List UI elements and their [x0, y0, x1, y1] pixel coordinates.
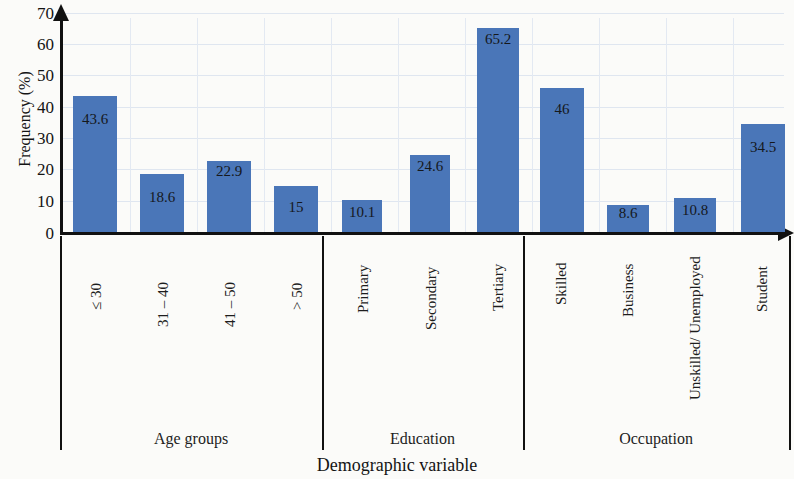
group-separator-age-education	[322, 236, 324, 450]
gridline-50	[62, 75, 784, 76]
x-tick-label-occupation-skilled: Skilled	[553, 262, 570, 305]
y-axis-line	[60, 18, 63, 235]
x-tick-label-occupation-unskilled-unemployed: Unskilled/ Unemployed	[687, 256, 704, 400]
x-tick-label-age-over-50: > 50	[289, 283, 306, 310]
gridline-vertical	[197, 18, 198, 232]
bar-label-education-primary: 10.1	[342, 205, 382, 220]
y-axis-title: Frequency (%)	[16, 44, 34, 194]
bar-label-occupation-skilled: 46	[540, 102, 584, 117]
x-tick-label-occupation-business: Business	[620, 264, 637, 317]
x-tick-label-education-primary: Primary	[355, 265, 372, 313]
gridline-vertical	[398, 18, 399, 232]
x-tick-label-occupation-student: Student	[754, 266, 771, 312]
group-label-education: Education	[322, 430, 523, 448]
x-tick-label-age-31-40: 31 – 40	[155, 282, 172, 327]
bar-education-tertiary	[477, 28, 519, 232]
gridline-40	[62, 107, 784, 108]
gridline-30	[62, 138, 784, 139]
y-tick-0: 0	[18, 225, 54, 242]
y-axis-arrow-icon	[53, 4, 69, 21]
gridline-vertical	[733, 18, 734, 232]
bar-chart: 70 60 50 40 30 20 10 0 Frequency (%) 43.…	[0, 0, 794, 479]
group-label-age-groups: Age groups	[60, 430, 322, 448]
x-tick-label-education-secondary: Secondary	[423, 267, 440, 330]
group-separator-left	[60, 236, 62, 450]
group-separator-right	[789, 236, 791, 450]
x-axis-line	[60, 232, 782, 235]
group-separator-education-occupation	[523, 236, 525, 450]
gridline-vertical	[130, 18, 131, 232]
y-tick-70: 70	[18, 5, 54, 22]
gridline-vertical	[465, 18, 466, 232]
bar-label-age-30-or-less: 43.6	[73, 112, 117, 127]
gridline-60	[62, 44, 784, 45]
bar-label-occupation-business: 8.6	[607, 206, 649, 221]
bar-label-age-31-40: 18.6	[140, 190, 184, 205]
gridline-vertical	[666, 18, 667, 232]
gridline-70	[62, 13, 784, 14]
bar-label-age-over-50: 15	[274, 200, 318, 215]
x-axis-title: Demographic variable	[0, 455, 794, 476]
x-tick-label-education-tertiary: Tertiary	[490, 264, 507, 311]
bar-label-occupation-student: 34.5	[741, 140, 785, 155]
bar-label-age-41-50: 22.9	[207, 164, 251, 179]
bar-label-education-secondary: 24.6	[410, 159, 450, 174]
group-label-occupation: Occupation	[523, 430, 789, 448]
bar-label-education-tertiary: 65.2	[477, 32, 519, 47]
gridline-vertical	[599, 18, 600, 232]
gridline-vertical	[532, 18, 533, 232]
gridline-vertical	[331, 18, 332, 232]
x-tick-label-age-41-50: 41 – 50	[222, 282, 239, 327]
y-tick-10: 10	[18, 193, 54, 210]
x-tick-label-age-30-or-less: ≤ 30	[88, 283, 105, 310]
bar-label-occupation-unskilled-unemployed: 10.8	[674, 203, 716, 218]
gridline-vertical	[264, 18, 265, 232]
